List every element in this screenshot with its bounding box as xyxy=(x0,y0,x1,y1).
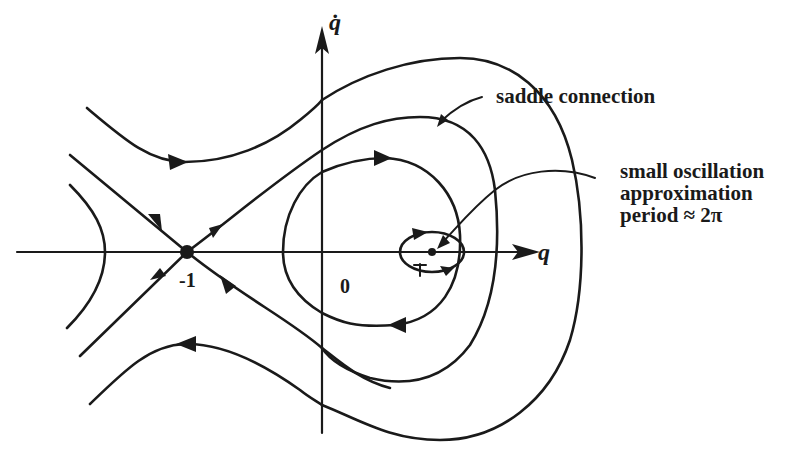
lower-right-trajectory xyxy=(322,348,390,388)
phase-portrait-figure: q q̇ -1 0 1 saddle connection small osci… xyxy=(0,0,800,457)
flow-arrow-inner-orbit-top xyxy=(374,150,392,166)
flow-arrow-top-hyperbola xyxy=(168,154,188,170)
flow-arrow-inner-orbit-bottom xyxy=(388,317,406,333)
separatrix-lower-left xyxy=(80,252,187,356)
inner-orbit-curve xyxy=(283,158,460,326)
flow-arrow-bottom-hyperbola xyxy=(176,336,196,352)
small-oscillation-line-1: small oscillation xyxy=(620,160,764,182)
left-hyperbola-curve xyxy=(67,185,105,328)
flow-arrow-separatrix-in-lower xyxy=(220,275,236,294)
saddle-connection-label: saddle connection xyxy=(496,86,655,107)
saddle-point xyxy=(180,245,194,259)
saddle-label: -1 xyxy=(179,270,196,290)
small-oscillation-line-3: period ≈ 2π xyxy=(620,204,764,226)
phase-portrait-svg xyxy=(0,0,800,457)
saddle-connection-curve xyxy=(187,117,497,382)
flow-arrow-ellipse-top xyxy=(412,228,428,240)
top-hyperbola-curve xyxy=(87,100,322,162)
small-oscillation-line-2: approximation xyxy=(620,182,764,204)
center-point xyxy=(428,248,436,256)
qdot-axis-label: q̇ xyxy=(329,10,341,34)
q-axis-label: q xyxy=(538,240,550,264)
saddle-connection-pointer xyxy=(440,97,482,122)
small-oscillation-pointer xyxy=(440,171,595,245)
small-oscillation-annotation: small oscillation approximation period ≈… xyxy=(620,160,764,226)
origin-label: 0 xyxy=(340,276,350,296)
flow-arrow-separatrix-out-lower xyxy=(150,268,166,280)
bottom-hyperbola-curve xyxy=(90,344,322,405)
flow-arrow-separatrix-out-upper xyxy=(209,224,223,238)
